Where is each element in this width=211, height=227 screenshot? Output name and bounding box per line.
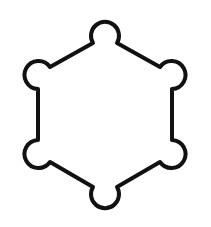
lobed-hexagon-outline: [25, 22, 186, 208]
figure-canvas: Hexagon outline with a circular lobe at …: [0, 0, 211, 227]
hexagon-with-lobes-icon: [0, 0, 211, 227]
